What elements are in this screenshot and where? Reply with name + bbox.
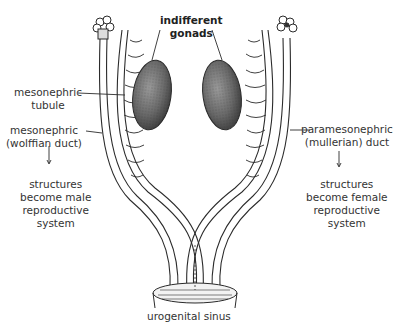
label-line: reproductive	[20, 204, 91, 217]
label-line: structures	[20, 178, 91, 191]
label-line: indifferent	[160, 14, 223, 27]
label-wolffian-duct: mesonephric (wolffian duct)	[6, 124, 82, 150]
label-line: mesonephric	[14, 86, 82, 99]
label-line: reproductive	[306, 204, 388, 217]
left-fimbria	[93, 16, 114, 39]
label-mesonephric-tubule: mesonephric tubule	[14, 86, 82, 112]
right-ducts	[187, 30, 291, 292]
pointer-lines	[47, 30, 341, 167]
label-mullerian-duct: paramesonephric (mullerian) duct	[301, 123, 393, 149]
label-indifferent-gonads: indifferent gonads	[160, 14, 223, 40]
label-line: tubule	[14, 99, 82, 112]
label-line: system	[306, 217, 388, 230]
label-line: become male	[20, 191, 91, 204]
label-female-outcome: structures become female reproductive sy…	[306, 178, 388, 230]
label-line: become female	[306, 191, 388, 204]
label-line: gonads	[160, 27, 223, 40]
right-fimbria	[277, 16, 297, 32]
label-urogenital-sinus: urogenital sinus	[147, 310, 231, 323]
label-line: (wolffian duct)	[6, 137, 82, 150]
urogenital-sinus-shape	[153, 245, 237, 308]
label-line: (mullerian) duct	[301, 136, 393, 149]
right-tubules	[245, 40, 266, 177]
label-line: system	[20, 217, 91, 230]
label-male-outcome: structures become male reproductive syst…	[20, 178, 91, 230]
label-line: mesonephric	[6, 124, 82, 137]
label-line: paramesonephric	[301, 123, 393, 136]
label-line: structures	[306, 178, 388, 191]
